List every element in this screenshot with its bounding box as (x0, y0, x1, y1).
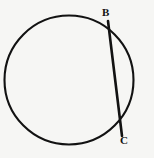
point-label-c: C (120, 135, 128, 146)
geometry-figure: B C (0, 0, 154, 158)
point-label-b: B (102, 7, 109, 18)
geometry-canvas (0, 0, 154, 158)
figure-background (0, 0, 154, 158)
